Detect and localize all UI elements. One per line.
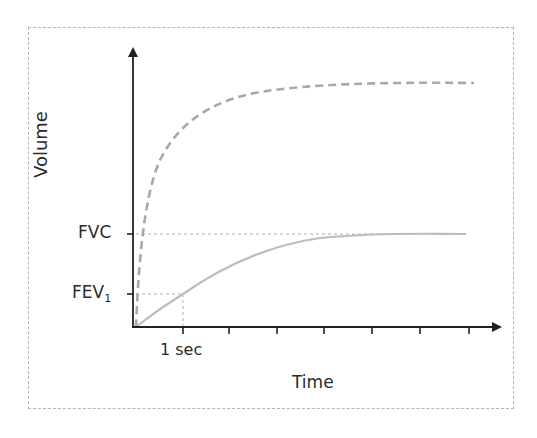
fev-subscript: 1 <box>104 292 111 305</box>
x-ticks <box>183 327 469 334</box>
plot-area <box>0 0 537 438</box>
x-axis-label: Time <box>292 372 334 392</box>
reference-lines <box>136 234 466 327</box>
fev1-label: FEV1 <box>72 282 111 305</box>
obstructive-curve-solid <box>137 234 466 326</box>
fvc-label: FVC <box>78 222 111 242</box>
y-axis-label: Volume <box>30 111 51 178</box>
one-sec-label: 1 sec <box>160 340 202 359</box>
fev-main-text: FEV <box>72 282 104 302</box>
